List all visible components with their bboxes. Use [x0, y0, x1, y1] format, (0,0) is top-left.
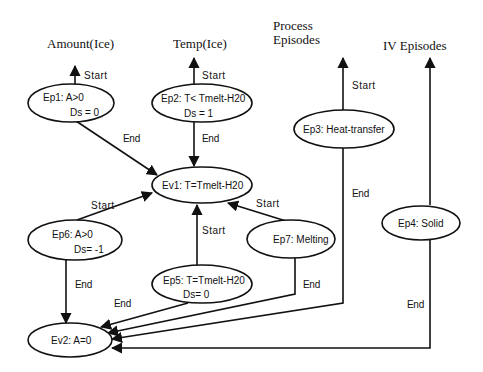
node-ep2: Ep2: T< Tmelt-H20 Ds = 1 [152, 84, 252, 122]
edge-label-ep3-start: Start [352, 80, 376, 91]
edge-ep1-end [76, 121, 157, 175]
node-ep6: Ep6: A>0 Ds= -1 [28, 220, 122, 260]
node-ep7: Ep7: Melting [247, 220, 335, 258]
node-ep3-title: Ep3: Heat-transfer [303, 124, 385, 135]
node-ep1: Ep1: A>0 Ds = 0 [28, 84, 114, 122]
node-ep2-ds: Ds = 1 [184, 108, 214, 119]
node-ep1-title: Ep1: A>0 [43, 92, 84, 103]
node-ev1-title: Ev1: T=Tmelt-H20 [162, 180, 244, 191]
edge-label-ep5-end: End [114, 298, 131, 309]
node-ep4-title: Ep4: Solid [398, 218, 444, 229]
node-ep7-title: Ep7: Melting [273, 234, 329, 245]
column-header-process-line2: Episodes [273, 32, 320, 47]
node-ep2-title: Ep2: T< Tmelt-H20 [161, 93, 246, 104]
node-ep4: Ep4: Solid [382, 206, 460, 240]
edge-label-ep5-start: Start [202, 225, 226, 236]
node-ep6-title: Ep6: A>0 [52, 229, 93, 240]
node-ep5-title: Ep5: T=Tmelt-H20 [163, 275, 245, 286]
node-ep6-ds: Ds= -1 [74, 244, 104, 255]
edge-label-ep7-end: End [303, 279, 320, 290]
edge-label-ep7-start: Start [256, 198, 280, 209]
node-ev1: Ev1: T=Tmelt-H20 [152, 167, 252, 203]
episode-diagram: Amount(Ice) Temp(Ice) Process Episodes I… [0, 0, 483, 372]
edge-label-ep6-end: End [75, 279, 92, 290]
edge-label-ep1-end: End [123, 133, 140, 144]
node-ep5-ds: Ds= 0 [183, 289, 210, 300]
node-ep3: Ep3: Heat-transfer [294, 110, 394, 148]
edge-label-ep2-end: End [202, 133, 219, 144]
edge-label-ep1-start: Start [84, 70, 108, 81]
column-header-process-line1: Process [273, 18, 313, 33]
node-ep5: Ep5: T=Tmelt-H20 Ds= 0 [152, 265, 252, 303]
node-ep1-ds: Ds = 0 [70, 107, 100, 118]
edge-label-ep3-end: End [352, 188, 369, 199]
edge-label-ep4-end: End [407, 299, 424, 310]
column-header-amount-ice: Amount(Ice) [47, 36, 114, 51]
edge-label-ep2-start: Start [202, 70, 226, 81]
edge-label-ep6-start: Start [91, 200, 115, 211]
node-ev2-title: Ev2: A=0 [51, 335, 92, 346]
column-header-temp-ice: Temp(Ice) [173, 36, 227, 51]
node-ev2: Ev2: A=0 [28, 323, 112, 357]
column-header-iv-episodes: IV Episodes [383, 38, 447, 53]
